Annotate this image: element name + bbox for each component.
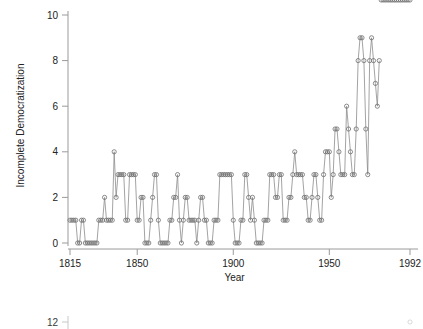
x-axis-ticks: 18151850190019501992 bbox=[59, 249, 422, 269]
x-axis-label-wrapper: Year bbox=[0, 272, 423, 283]
secondary-series-markers bbox=[408, 320, 412, 324]
figure-root: Incomplete Democratization 0246810 18151… bbox=[0, 0, 423, 329]
y-axis-ticks: 0246810 bbox=[47, 10, 68, 249]
secondary-data-point-marker bbox=[408, 320, 412, 324]
secondary-y-axis-ticks: 12 bbox=[47, 316, 68, 329]
x-tick-label: 1950 bbox=[318, 258, 341, 269]
series-line-incomplete-democratization bbox=[70, 38, 379, 243]
y-tick-label: 10 bbox=[47, 10, 59, 21]
y-tick-label: 4 bbox=[52, 146, 58, 157]
x-tick-label: 1815 bbox=[59, 258, 82, 269]
series-markers bbox=[68, 0, 412, 245]
main-chart: Incomplete Democratization 0246810 18151… bbox=[0, 0, 423, 300]
y-tick-label: 6 bbox=[52, 101, 58, 112]
x-tick-label: 1992 bbox=[399, 258, 422, 269]
x-tick-label: 1850 bbox=[126, 258, 149, 269]
secondary-chart-partial: 12 bbox=[0, 300, 423, 329]
secondary-plot-canvas: 12 bbox=[0, 300, 423, 329]
x-axis-label: Year bbox=[224, 272, 244, 283]
y-tick-label: 0 bbox=[52, 238, 58, 249]
x-tick-label: 1900 bbox=[222, 258, 245, 269]
y-tick-label: 2 bbox=[52, 192, 58, 203]
y-tick-label: 8 bbox=[52, 55, 58, 66]
secondary-y-tick-label: 12 bbox=[47, 317, 59, 328]
plot-canvas: 0246810 18151850190019501992 bbox=[0, 0, 423, 300]
